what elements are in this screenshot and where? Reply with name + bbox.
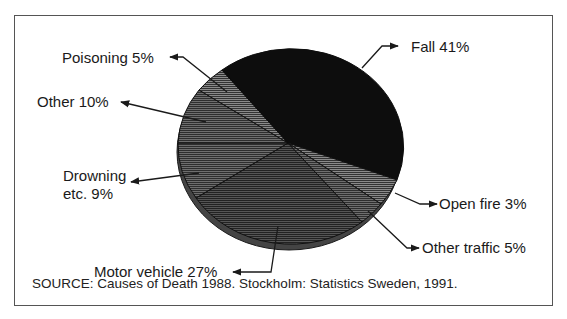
label-fall: Fall 41% — [411, 38, 469, 55]
pie-chart — [0, 0, 567, 319]
label-drowning-line2: etc. 9% — [63, 185, 113, 202]
label-poisoning: Poisoning 5% — [62, 49, 154, 66]
label-other: Other 10% — [37, 93, 109, 110]
leader-other-traffic — [368, 211, 419, 248]
leader-fall — [362, 46, 398, 68]
label-open-fire: Open fire 3% — [439, 195, 527, 212]
label-drowning-line1: Drowning — [63, 167, 126, 184]
pie-slices — [178, 49, 404, 244]
label-other-traffic: Other traffic 5% — [422, 239, 526, 256]
source-note: SOURCE: Causes of Death 1988. Stockholm:… — [32, 276, 457, 291]
leader-open-fire — [395, 193, 437, 204]
